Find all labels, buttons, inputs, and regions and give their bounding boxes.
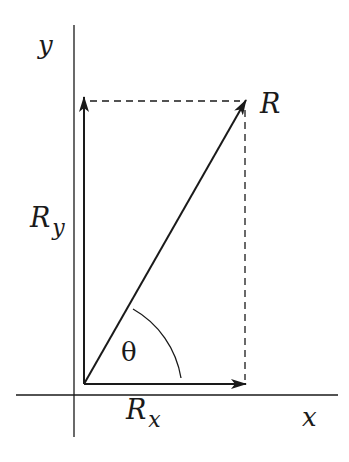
vector-rx-label: Rx <box>125 394 161 432</box>
angle-theta-label: θ <box>121 337 137 367</box>
angle-arc <box>133 309 181 378</box>
vector-rx-label-subscript: x <box>148 407 161 432</box>
vector-ry-label: Ry <box>29 202 65 240</box>
y-axis-label: y <box>37 30 53 60</box>
vector-r-arrow <box>84 100 246 384</box>
vector-r-label: R <box>259 88 280 119</box>
vector-diagram: y x R Ry Rx θ <box>0 0 349 462</box>
x-axis-label: x <box>302 402 317 432</box>
vector-rx-label-main: R <box>125 394 146 425</box>
vector-ry-label-main: R <box>29 202 50 233</box>
vector-ry-label-subscript: y <box>51 215 65 240</box>
